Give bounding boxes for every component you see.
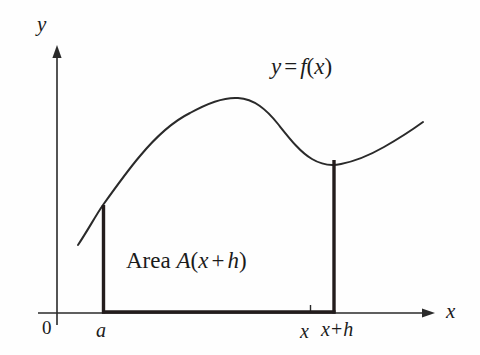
tick-label-x: x — [300, 321, 309, 341]
area-label-arg-second: h — [227, 248, 239, 273]
figure-canvas — [0, 0, 480, 355]
x-axis-label: x — [446, 301, 455, 322]
tick-label-xh-h: h — [343, 318, 353, 340]
origin-label: 0 — [42, 318, 52, 337]
tick-label-x-plus-h: x+h — [321, 319, 353, 339]
x-axis-arrowhead — [422, 308, 435, 317]
area-label-plus: + — [208, 248, 227, 273]
area-label-symbol: A — [176, 248, 190, 273]
area-label-arg-first: x — [198, 248, 208, 273]
area-label: Area A(x+h) — [126, 249, 247, 272]
curve-equation-argument: x — [314, 54, 324, 79]
y-axis-label: y — [37, 14, 46, 35]
area-under-curve-figure: y x 0 a x x+h y=f(x) Area A(x+h) — [0, 0, 480, 355]
curve-equation-equals: = — [281, 54, 300, 79]
area-label-close-paren: ) — [239, 248, 247, 273]
tick-label-a: a — [96, 320, 106, 340]
area-label-word: Area — [126, 248, 171, 273]
tick-label-xh-plus: + — [330, 318, 343, 340]
curve-equation-close-paren: ) — [324, 54, 332, 79]
curve-equation-label: y=f(x) — [271, 55, 332, 78]
tick-label-xh-x: x — [321, 318, 330, 340]
curve-equation-lhs: y — [271, 54, 281, 79]
function-curve — [78, 98, 423, 245]
y-axis-arrowhead — [52, 45, 61, 58]
